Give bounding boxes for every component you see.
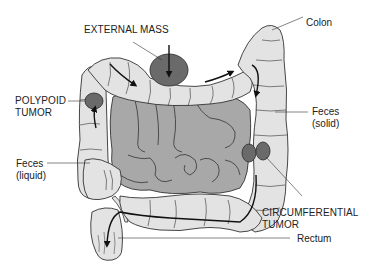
label-polypoid-tumor: POLYPOID TUMOR [15, 95, 66, 119]
sigmoid-colon [120, 194, 262, 232]
label-polypoid-line1: POLYPOID [15, 95, 66, 107]
label-circumferential-line1: CIRCUMFERENTIAL [262, 207, 359, 219]
circumferential-tumor-left [242, 144, 256, 162]
label-rectum: Rectum [297, 233, 331, 245]
label-circumferential-line2: TUMOR [262, 219, 359, 231]
label-polypoid-line2: TUMOR [15, 107, 66, 119]
label-feces-liquid: Feces (liquid) [16, 158, 46, 182]
label-circumferential-tumor: CIRCUMFERENTIAL TUMOR [262, 207, 359, 231]
label-colon: Colon [306, 17, 332, 29]
label-feces-solid-line1: Feces [312, 106, 339, 118]
label-external-mass: EXTERNAL MASS [84, 24, 169, 36]
label-feces-liquid-line2: (liquid) [16, 170, 46, 182]
circumferential-tumor-right [256, 142, 270, 160]
label-feces-solid-line2: (solid) [312, 118, 339, 130]
label-feces-solid: Feces (solid) [312, 106, 339, 130]
polypoid-tumor [85, 93, 103, 109]
rectum [91, 208, 123, 260]
label-feces-liquid-line1: Feces [16, 158, 46, 170]
small-intestine [110, 94, 250, 194]
